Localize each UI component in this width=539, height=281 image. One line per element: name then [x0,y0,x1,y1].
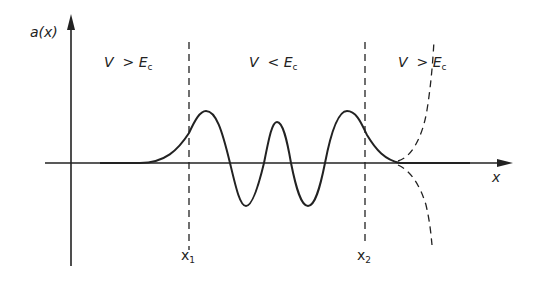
x-axis-arrow-icon [497,159,513,167]
region-right-label: V > Ec [398,55,446,69]
wavefunction-diagram [0,0,539,281]
turning-point-x1-label: x1 [181,248,195,262]
y-axis-arrow-icon [67,14,75,30]
region-middle-label: V < Ec [249,55,297,69]
y-axis-label: a(x) [30,25,58,39]
turning-point-x2-label: x2 [357,248,371,262]
region-left-label: V > Ec [104,55,152,69]
wavefunction-curve [100,111,470,206]
divergent-solution-down [398,165,432,245]
x-axis-label: x [492,170,500,184]
